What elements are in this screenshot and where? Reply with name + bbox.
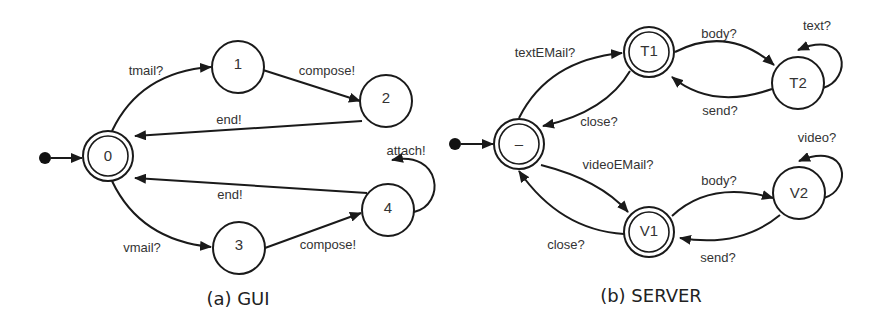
server-label-send-v: send? (700, 250, 735, 265)
svg-text:T2: T2 (789, 74, 807, 91)
server-edge-t2-t1 (672, 77, 772, 97)
gui-label-compose-3: compose! (300, 237, 356, 252)
server-state-v1: V1 (624, 207, 674, 257)
server-caption: (b) SERVER (600, 285, 702, 306)
gui-edge-0-3 (112, 181, 211, 247)
server-edge-v1-init (519, 171, 624, 234)
server-diagram: textEMail? close? body? send? text? vide… (449, 18, 842, 306)
gui-label-compose-1: compose! (299, 63, 355, 78)
server-edge-v1-v2 (672, 192, 773, 216)
server-label-videoemail: videoEMail? (583, 157, 654, 172)
server-state-t2: T2 (772, 57, 824, 109)
gui-label-end-2: end! (216, 112, 241, 127)
server-label-body-t: body? (701, 26, 736, 41)
svg-text:T1: T1 (640, 42, 658, 59)
server-label-close-v1: close? (547, 237, 585, 252)
gui-edge-4-0 (135, 178, 367, 193)
server-initial-dot (449, 138, 461, 150)
gui-diagram: tmail? compose! end! vmail? compose! end… (39, 41, 435, 309)
server-state-init: – (494, 119, 544, 169)
server-state-v2: V2 (773, 167, 825, 219)
server-label-textemail: textEMail? (515, 45, 576, 60)
server-edge-t1-t2 (675, 41, 774, 65)
gui-label-tmail: tmail? (129, 63, 164, 78)
svg-text:1: 1 (234, 55, 242, 72)
server-edge-init-v1 (541, 165, 628, 212)
gui-edge-2-0 (135, 121, 362, 136)
server-edge-init-t1 (519, 53, 622, 118)
gui-label-end-4: end! (217, 187, 242, 202)
server-state-t1: T1 (624, 27, 674, 77)
server-label-text: text? (803, 18, 831, 33)
svg-text:4: 4 (384, 199, 392, 216)
gui-caption: (a) GUI (206, 288, 269, 309)
svg-text:3: 3 (235, 236, 243, 253)
server-edge-v2-v1 (680, 215, 780, 240)
gui-state-1: 1 (212, 41, 264, 93)
server-label-send-t: send? (702, 103, 737, 118)
gui-initial-dot (39, 152, 51, 164)
gui-state-2: 2 (360, 75, 412, 127)
gui-state-4: 4 (362, 184, 414, 236)
gui-label-vmail: vmail? (123, 240, 161, 255)
svg-text:V2: V2 (790, 184, 808, 201)
server-label-body-v: body? (701, 173, 736, 188)
server-label-video: video? (798, 130, 836, 145)
gui-state-3: 3 (213, 222, 265, 274)
svg-text:–: – (515, 135, 524, 152)
svg-text:0: 0 (104, 147, 112, 164)
svg-text:V1: V1 (640, 222, 658, 239)
gui-label-attach: attach! (386, 143, 425, 158)
svg-text:2: 2 (382, 89, 390, 106)
gui-state-0: 0 (83, 131, 133, 181)
state-diagrams: tmail? compose! end! vmail? compose! end… (0, 0, 880, 330)
server-label-close-t1: close? (580, 114, 618, 129)
